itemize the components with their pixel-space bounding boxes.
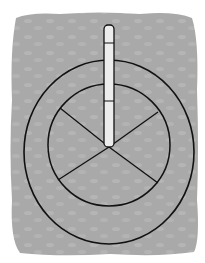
pit-structure-illustration [0, 0, 205, 263]
central-post [104, 25, 114, 147]
